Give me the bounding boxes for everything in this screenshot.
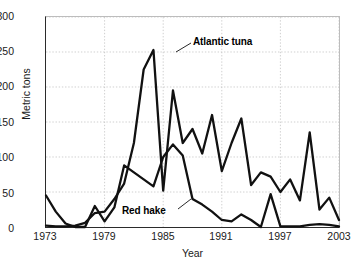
series-label-red-hake: Red hake [122,205,166,216]
leader-line-atlantic-tuna [176,43,191,52]
series-label-atlantic-tuna: Atlantic tuna [193,36,252,47]
leader-line-red-hake [178,199,191,209]
chart-figure: 300 250 200 150 100 50 0 1973 1979 1985 … [0,0,357,270]
annotation-leader-lines [0,0,357,270]
